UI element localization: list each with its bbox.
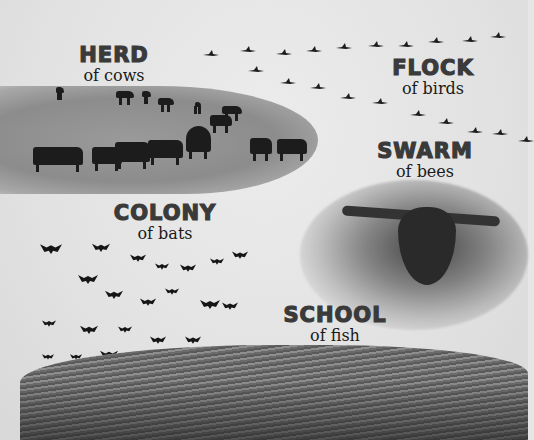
bird-icon <box>410 110 426 118</box>
cow-icon <box>222 106 242 114</box>
cow-icon <box>277 139 307 154</box>
bat-icon <box>155 255 169 274</box>
label-title: HERD <box>74 44 154 66</box>
cow-icon <box>186 126 211 152</box>
bird-icon <box>467 127 483 135</box>
bird-icon <box>310 83 326 91</box>
bird-icon <box>438 118 454 126</box>
label-swarm: SWARM of bees <box>370 140 480 181</box>
cow-icon <box>210 115 232 126</box>
bird-icon <box>280 78 296 86</box>
bat-icon <box>42 312 56 331</box>
bird-icon <box>372 98 388 106</box>
cow-icon <box>148 140 183 158</box>
label-title: COLONY <box>110 202 220 224</box>
cow-icon <box>115 142 150 162</box>
label-subtitle: of bats <box>110 224 220 243</box>
bat-icon <box>42 345 54 364</box>
label-subtitle: of bees <box>370 162 480 181</box>
cow-icon <box>56 87 64 93</box>
label-subtitle: of fish <box>280 326 390 345</box>
bat-icon <box>165 280 179 299</box>
fish-school-shadow <box>20 380 528 440</box>
bird-icon <box>490 32 506 40</box>
bird-icon <box>518 136 534 144</box>
bat-icon <box>92 238 110 257</box>
cow-icon <box>33 147 83 165</box>
bat-icon <box>105 285 123 304</box>
bat-icon <box>130 248 146 267</box>
bat-icon <box>118 318 132 337</box>
bird-icon <box>240 46 256 54</box>
bat-icon <box>40 240 62 259</box>
bat-icon <box>222 296 238 315</box>
label-title: SCHOOL <box>280 304 390 326</box>
label-school: SCHOOL of fish <box>280 304 390 345</box>
bird-icon <box>492 129 508 137</box>
label-subtitle: of birds <box>388 79 478 98</box>
bird-icon <box>340 93 356 101</box>
bird-icon <box>368 41 384 49</box>
bird-icon <box>203 50 219 58</box>
bat-icon <box>140 292 156 311</box>
cow-icon <box>250 138 272 154</box>
bat-icon <box>210 250 224 269</box>
label-herd: HERD of cows <box>74 44 154 85</box>
bat-icon <box>78 270 98 289</box>
bird-icon <box>336 43 352 51</box>
bird-icon <box>306 46 322 54</box>
bat-icon <box>200 295 220 314</box>
cow-icon <box>195 102 201 107</box>
bat-icon <box>232 245 248 264</box>
label-title: FLOCK <box>388 57 478 79</box>
cow-icon <box>116 91 134 98</box>
bird-icon <box>276 49 292 57</box>
bird-icon <box>398 41 414 49</box>
label-flock: FLOCK of birds <box>388 57 478 98</box>
bird-icon <box>462 36 478 44</box>
bird-icon <box>248 66 264 74</box>
cow-icon <box>142 91 151 97</box>
label-title: SWARM <box>370 140 480 162</box>
bat-icon <box>180 258 196 277</box>
label-subtitle: of cows <box>74 66 154 85</box>
bird-icon <box>428 37 444 45</box>
label-colony: COLONY of bats <box>110 202 220 243</box>
bat-icon <box>80 320 98 339</box>
cow-icon <box>158 98 174 105</box>
